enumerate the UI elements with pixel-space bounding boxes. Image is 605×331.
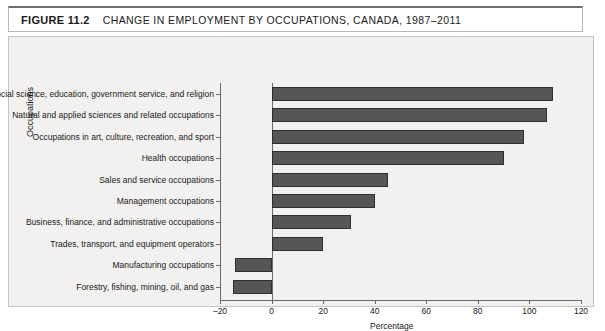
bar-row: Manufacturing occupations (220, 255, 581, 276)
category-label: Forestry, fishing, mining, oil, and gas (76, 281, 214, 293)
y-axis-tick (216, 244, 220, 245)
x-axis-tick-label: 60 (422, 306, 431, 316)
y-axis-tick (216, 137, 220, 138)
bar (272, 215, 352, 229)
figure-number-label: FIGURE 11.2 (21, 14, 90, 26)
category-label: Sales and service occupations (99, 174, 214, 186)
category-label: Management occupations (117, 195, 214, 207)
x-axis-title: Percentage (370, 321, 413, 331)
y-axis-tick (216, 158, 220, 159)
bar-row: Management occupations (220, 191, 581, 212)
y-axis-tick (216, 201, 220, 202)
x-axis-tick (375, 300, 376, 304)
bar-row: Forestry, fishing, mining, oil, and gas (220, 277, 581, 298)
x-axis-tick-label: 40 (370, 306, 379, 316)
category-label: Trades, transport, and equipment operato… (50, 238, 214, 250)
x-axis-tick-label: –20 (213, 306, 227, 316)
bar-row: Social science, education, government se… (220, 84, 581, 105)
x-axis-tick (581, 300, 582, 304)
bar (272, 194, 375, 208)
chart-container: Occupations Social science, education, g… (8, 36, 594, 307)
x-axis-tick (272, 300, 273, 304)
x-axis-tick (529, 300, 530, 304)
y-axis-tick (216, 222, 220, 223)
category-label: Social science, education, government se… (0, 88, 214, 100)
category-label: Manufacturing occupations (112, 259, 214, 271)
figure-header: FIGURE 11.2 CHANGE IN EMPLOYMENT BY OCCU… (8, 6, 583, 32)
category-label: Health occupations (142, 152, 214, 164)
x-axis-tick-label: 20 (318, 306, 327, 316)
bar (272, 173, 388, 187)
bar-row: Business, finance, and administrative oc… (220, 212, 581, 233)
y-axis-tick (216, 94, 220, 95)
bar (235, 258, 271, 272)
bar (272, 108, 548, 122)
x-axis-line (220, 300, 581, 301)
y-axis-tick (216, 287, 220, 288)
category-label: Occupations in art, culture, recreation,… (33, 131, 214, 143)
plot-area: Social science, education, government se… (220, 83, 591, 302)
x-axis-tick-label: 100 (522, 306, 536, 316)
x-axis-tick (220, 300, 221, 304)
x-axis-tick-label: 120 (574, 306, 588, 316)
category-label: Natural and applied sciences and related… (12, 109, 214, 121)
figure-title: CHANGE IN EMPLOYMENT BY OCCUPATIONS, CAN… (103, 14, 461, 26)
bar-row: Trades, transport, and equipment operato… (220, 234, 581, 255)
bar (272, 237, 324, 251)
bar-row: Occupations in art, culture, recreation,… (220, 127, 581, 148)
y-axis-tick (216, 115, 220, 116)
x-axis-tick (426, 300, 427, 304)
bar-row: Sales and service occupations (220, 170, 581, 191)
x-axis-tick-label: 0 (269, 306, 274, 316)
bar-row: Natural and applied sciences and related… (220, 105, 581, 126)
y-axis-tick (216, 265, 220, 266)
bar (272, 151, 504, 165)
x-axis-tick (478, 300, 479, 304)
bar-row: Health occupations (220, 148, 581, 169)
x-axis-tick (323, 300, 324, 304)
y-axis-tick (216, 180, 220, 181)
category-label: Business, finance, and administrative oc… (26, 216, 214, 228)
bar (272, 130, 525, 144)
bar (272, 87, 553, 101)
x-axis-tick-label: 80 (473, 306, 482, 316)
bar (233, 280, 272, 294)
